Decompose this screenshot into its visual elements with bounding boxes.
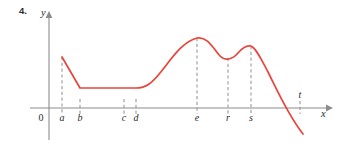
tick-label-r: r — [221, 112, 235, 123]
exercise-number: 4. — [19, 5, 27, 16]
x-axis-arrowhead — [326, 105, 333, 112]
y-axis-arrowhead — [46, 11, 53, 18]
plot-svg — [0, 0, 338, 147]
tick-label-b: b — [73, 112, 87, 123]
x-axis-label: x — [321, 108, 326, 119]
origin-label: 0 — [34, 112, 48, 123]
tick-label-a: a — [55, 112, 69, 123]
function-curve — [62, 38, 303, 134]
tick-label-d: d — [129, 112, 143, 123]
tick-label-e: e — [190, 112, 204, 123]
tick-label-t: t — [293, 89, 307, 100]
y-axis-label: y — [41, 7, 46, 18]
figure-container: 4. y x 0 a b c d e r s t — [0, 0, 338, 147]
tick-label-s: s — [244, 112, 258, 123]
dashed-guides-group — [62, 38, 300, 114]
